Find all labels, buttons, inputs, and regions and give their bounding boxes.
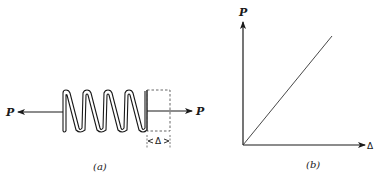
- spring-diagram: P P Δ (a) P Δ (b): [0, 0, 380, 184]
- spring-coil: [63, 90, 147, 132]
- caption-b: (b): [306, 159, 320, 170]
- y-axis-label: P: [238, 6, 248, 19]
- linear-load-line: [243, 36, 332, 145]
- figure-a: P P Δ (a): [5, 90, 205, 172]
- caption-a: (a): [93, 161, 107, 172]
- x-axis-label: Δ: [367, 141, 374, 151]
- right-force-label: P: [195, 105, 205, 118]
- figure-b: P Δ (b): [238, 6, 374, 170]
- elongation-label: Δ: [155, 136, 162, 146]
- left-force-label: P: [5, 106, 15, 119]
